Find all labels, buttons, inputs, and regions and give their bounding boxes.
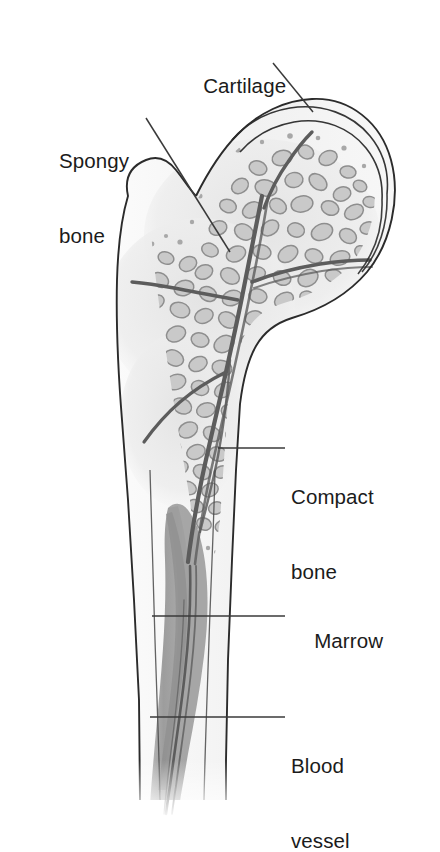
- label-marrow: Marrow: [291, 603, 383, 678]
- label-spongy-bone-line1: Spongy: [59, 148, 129, 173]
- label-blood-vessel: Blood vessel: [291, 703, 350, 852]
- label-cartilage-text: Cartilage: [203, 74, 286, 97]
- label-spongy-bone-line2: bone: [59, 223, 129, 248]
- label-blood-vessel-line1: Blood: [291, 753, 350, 778]
- label-compact-bone-line2: bone: [291, 559, 374, 584]
- label-cartilage: Cartilage: [180, 48, 286, 123]
- label-blood-vessel-line2: vessel: [291, 828, 350, 852]
- label-spongy-bone: Spongy bone: [59, 98, 129, 298]
- label-marrow-text: Marrow: [314, 629, 383, 652]
- bottom-fade-overlay: [100, 760, 280, 820]
- label-compact-bone-line1: Compact: [291, 484, 374, 509]
